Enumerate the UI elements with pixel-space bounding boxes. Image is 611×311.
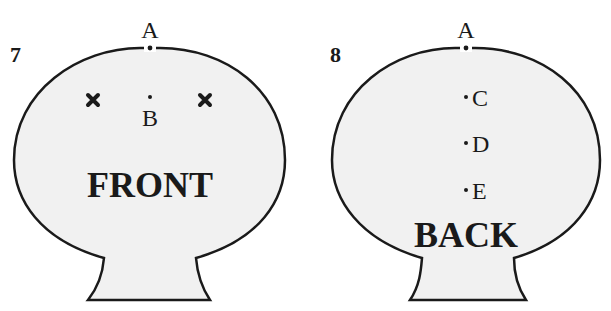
label-c: C xyxy=(472,85,488,111)
figure-number-8: 8 xyxy=(330,42,341,67)
point-d-dot xyxy=(464,141,468,145)
label-d: D xyxy=(472,131,489,157)
figure-number-7: 7 xyxy=(10,42,21,67)
point-c-dot xyxy=(464,95,468,99)
view-label-front: FRONT xyxy=(87,165,213,205)
head-outline-back xyxy=(332,48,600,300)
point-b-dot xyxy=(148,95,152,99)
figure-back: A 8 C D E BACK xyxy=(330,17,600,300)
label-e: E xyxy=(472,178,487,204)
figure-front: A 7 B FRONT xyxy=(10,17,285,300)
label-b: B xyxy=(142,105,158,131)
label-a-back: A xyxy=(457,17,475,43)
head-diagrams: A 7 B FRONT A 8 C D E BACK xyxy=(0,0,611,311)
label-a-front: A xyxy=(141,17,159,43)
view-label-back: BACK xyxy=(414,215,518,255)
point-a-dot-back xyxy=(464,46,469,51)
point-e-dot xyxy=(464,188,468,192)
point-a-dot-front xyxy=(148,46,153,51)
